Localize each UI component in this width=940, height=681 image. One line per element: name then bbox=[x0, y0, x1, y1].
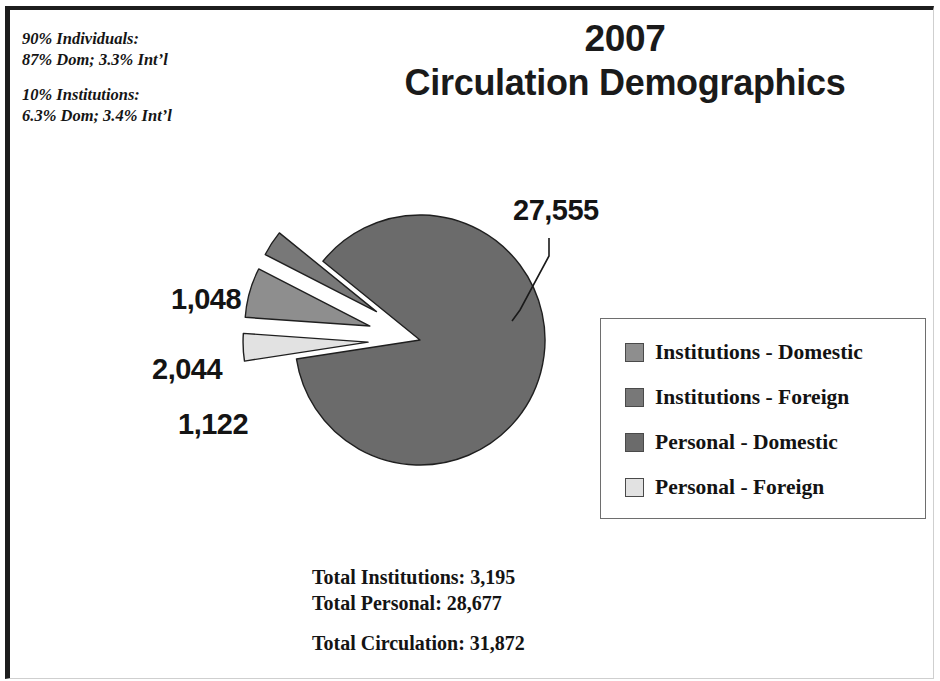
institutions-header: 10% Institutions: bbox=[22, 84, 172, 105]
total-institutions: Total Institutions: 3,195 bbox=[312, 564, 525, 590]
chart-title: 2007 Circulation Demographics bbox=[330, 18, 920, 106]
legend-item-institutions-foreign[interactable]: Institutions - Foreign bbox=[601, 375, 925, 420]
slice-value-personal-domestic: 27,555 bbox=[513, 194, 599, 227]
total-circulation: Total Circulation: 31,872 bbox=[312, 630, 525, 656]
legend-label: Institutions - Foreign bbox=[655, 385, 849, 410]
legend-item-personal-foreign[interactable]: Personal - Foreign bbox=[601, 465, 925, 510]
legend-label: Personal - Foreign bbox=[655, 475, 824, 500]
totals-block: Total Institutions: 3,195 Total Personal… bbox=[312, 564, 525, 656]
legend-swatch-icon bbox=[625, 388, 644, 407]
chart-title-main: Circulation Demographics bbox=[330, 60, 920, 106]
legend-swatch-icon bbox=[625, 433, 644, 452]
slice-value-personal-foreign: 1,122 bbox=[178, 408, 248, 441]
individuals-annotation-block: 90% Individuals: 87% Dom; 3.3% Int’l bbox=[22, 28, 172, 70]
demographics-annotation: 90% Individuals: 87% Dom; 3.3% Int’l 10%… bbox=[22, 28, 172, 126]
legend-swatch-icon bbox=[625, 343, 644, 362]
chart-legend: Institutions - Domestic Institutions - F… bbox=[600, 318, 926, 519]
legend-label: Personal - Domestic bbox=[655, 430, 838, 455]
institutions-detail: 6.3% Dom; 3.4% Int’l bbox=[22, 105, 172, 126]
slice-value-institutions-domestic: 2,044 bbox=[152, 353, 222, 386]
slice-value-institutions-foreign: 1,048 bbox=[171, 283, 241, 316]
individuals-detail: 87% Dom; 3.3% Int’l bbox=[22, 49, 172, 70]
legend-label: Institutions - Domestic bbox=[655, 340, 863, 365]
institutions-annotation-block: 10% Institutions: 6.3% Dom; 3.4% Int’l bbox=[22, 84, 172, 126]
legend-item-personal-domestic[interactable]: Personal - Domestic bbox=[601, 420, 925, 465]
slide-canvas: 90% Individuals: 87% Dom; 3.3% Int’l 10%… bbox=[0, 0, 940, 681]
legend-item-institutions-domestic[interactable]: Institutions - Domestic bbox=[601, 330, 925, 375]
total-personal: Total Personal: 28,677 bbox=[312, 590, 525, 616]
individuals-header: 90% Individuals: bbox=[22, 28, 172, 49]
legend-swatch-icon bbox=[625, 478, 644, 497]
chart-title-year: 2007 bbox=[330, 18, 920, 60]
